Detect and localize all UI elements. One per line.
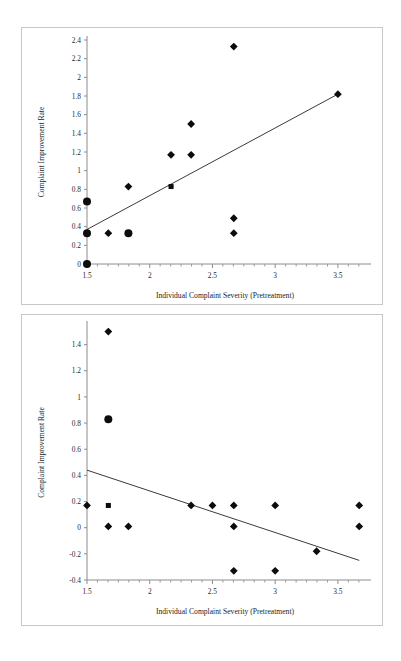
marker-diamond-core [189,153,193,157]
x-tick-label: 2.5 [208,271,218,280]
x-tick-label: 1.5 [82,587,92,596]
y-tick-label: -0.4 [69,576,81,585]
y-tick-label: 1.2 [72,366,82,375]
trendline [87,470,359,560]
marker-circle [83,229,91,237]
y-tick-label: 2 [77,73,81,82]
y-tick-label: 0.6 [72,445,82,454]
marker-circle [104,415,112,423]
y-tick-label: 1.6 [72,110,82,119]
y-tick-label: -0.2 [69,550,81,559]
marker-diamond-core [232,524,236,528]
marker-circle [124,229,132,237]
x-tick-label: 2 [148,271,152,280]
marker-diamond-core [189,503,193,507]
data-point [104,415,112,423]
marker-diamond-core [232,216,236,220]
y-tick-label: 1 [77,393,81,402]
y-axis-title: Complaint Improvement Rate [37,106,46,197]
marker-diamond-core [106,524,110,528]
data-point [355,502,363,510]
y-tick-label: 0.4 [72,222,82,231]
marker-diamond-core [273,503,277,507]
y-tick-label: 2.2 [72,54,82,63]
x-tick-label: 3 [273,271,277,280]
marker-square-core [106,503,111,508]
data-point [83,197,91,205]
scatter-plot-top: 00.20.40.60.811.21.41.61.822.22.41.522.5… [22,28,382,304]
y-tick-label: 0.8 [72,185,82,194]
y-tick-label: 1.2 [72,148,82,157]
data-point [230,229,238,237]
data-point [125,183,133,191]
data-point [230,522,238,530]
x-axis-title: Individual Complaint Severity (Pretreatm… [156,291,295,300]
marker-square-core [169,184,174,189]
data-point [83,260,91,268]
marker-diamond-core [106,231,110,235]
data-point [313,547,321,555]
data-point [124,229,132,237]
y-tick-label: 1 [77,166,81,175]
data-point [230,43,238,51]
x-tick-label: 3.5 [333,271,343,280]
x-tick-label: 2.5 [208,587,218,596]
marker-diamond-core [169,153,173,157]
y-tick-label: 1.8 [72,92,82,101]
marker-diamond-core [126,184,130,188]
marker-diamond-core [232,503,236,507]
y-tick-label: 0.2 [72,497,82,506]
y-tick-label: 0.4 [72,471,82,480]
figure-page: 00.20.40.60.811.21.41.61.822.22.41.522.5… [0,0,401,661]
data-point [83,229,91,237]
data-point [187,120,195,128]
marker-diamond-core [232,231,236,235]
x-tick-label: 3.5 [333,587,343,596]
data-point [106,503,111,508]
y-tick-label: 0.8 [72,419,82,428]
data-point [104,522,112,530]
data-point [355,522,363,530]
data-point [209,502,217,510]
marker-diamond-core [273,569,277,573]
y-tick-label: 0 [77,260,81,269]
marker-circle [83,260,91,268]
y-tick-label: 2.4 [72,36,82,45]
y-tick-label: 0.6 [72,204,82,213]
data-point [271,502,279,510]
marker-diamond-core [126,524,130,528]
data-point [334,90,342,98]
chart-panel-bottom: -0.4-0.200.20.40.60.811.21.41.522.533.5I… [21,314,383,626]
data-point [169,184,174,189]
data-point [83,502,91,510]
x-tick-label: 1.5 [82,271,92,280]
x-axis-title: Individual Complaint Severity (Pretreatm… [156,607,295,616]
marker-diamond-core [106,329,110,333]
marker-diamond-core [336,92,340,96]
trendline [87,94,338,229]
data-point [187,151,195,159]
y-tick-label: 0.2 [72,241,82,250]
y-tick-label: 1.4 [72,340,82,349]
data-point [187,502,195,510]
data-point [104,229,112,237]
marker-diamond-core [232,569,236,573]
marker-diamond-core [357,503,361,507]
marker-diamond-core [210,503,214,507]
data-point [230,502,238,510]
data-point [125,522,133,530]
marker-diamond-core [314,549,318,553]
y-tick-label: 0 [77,523,81,532]
marker-diamond-core [189,122,193,126]
data-point [230,567,238,575]
marker-diamond-core [357,524,361,528]
data-point [104,328,112,336]
data-point [271,567,279,575]
scatter-plot-bottom: -0.4-0.200.20.40.60.811.21.41.522.533.5I… [22,315,382,625]
y-tick-label: 1.4 [72,129,82,138]
data-point [167,151,175,159]
marker-circle [83,197,91,205]
data-point [230,214,238,222]
marker-diamond-core [85,503,89,507]
chart-panel-top: 00.20.40.60.811.21.41.61.822.22.41.522.5… [21,27,383,305]
